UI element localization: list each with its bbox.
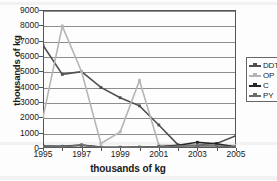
data-point xyxy=(100,142,103,145)
x-axis-tick-mark xyxy=(159,148,160,151)
legend-label: C xyxy=(263,81,269,90)
legend-swatch-icon xyxy=(249,62,261,69)
data-point xyxy=(119,131,122,134)
x-axis-tick-mark xyxy=(101,148,102,151)
data-point xyxy=(43,44,44,47)
series-lines xyxy=(43,10,236,148)
legend-item-op[interactable]: OP xyxy=(249,70,277,80)
data-point xyxy=(80,144,83,147)
legend-swatch-icon xyxy=(249,82,261,89)
x-axis-tick-mark xyxy=(43,148,44,151)
legend-swatch-icon xyxy=(249,72,261,79)
y-axis-tick-label: 6000 xyxy=(5,51,39,61)
data-point xyxy=(43,116,44,119)
chart-container: thousands of kg 010002000300040005000600… xyxy=(0,0,277,181)
legend-label: DDT xyxy=(263,61,277,70)
scan-artifact-top xyxy=(0,2,277,5)
legend-item-ddt[interactable]: DDT xyxy=(249,60,277,70)
scan-artifact-bottom xyxy=(0,176,277,180)
legend-item-c[interactable]: C xyxy=(249,80,277,90)
data-point xyxy=(100,86,103,89)
data-point xyxy=(235,134,236,137)
y-axis-tick-label: 9000 xyxy=(5,5,39,15)
x-axis-tick-mark xyxy=(140,148,141,151)
legend-item-py[interactable]: PY xyxy=(249,90,277,100)
x-axis-tick-mark xyxy=(217,148,218,151)
x-axis-tick-mark xyxy=(120,148,121,151)
y-axis-tick-label: 3000 xyxy=(5,97,39,107)
data-point xyxy=(80,70,83,73)
y-axis-tick-label: 5000 xyxy=(5,66,39,76)
x-axis-tick-mark xyxy=(82,148,83,151)
data-point xyxy=(138,104,141,107)
y-axis-tick-label: 7000 xyxy=(5,36,39,46)
data-point xyxy=(61,25,64,28)
data-point xyxy=(61,73,64,76)
data-point xyxy=(196,144,199,147)
y-axis-tick-label: 4000 xyxy=(5,82,39,92)
x-axis-tick-mark xyxy=(197,148,198,151)
y-axis-tick-label: 8000 xyxy=(5,20,39,30)
x-axis-tick-mark xyxy=(62,148,63,151)
chart-legend: DDTOPCPY xyxy=(246,57,277,102)
data-point xyxy=(138,79,141,82)
series-line-op xyxy=(43,26,236,146)
legend-swatch-icon xyxy=(249,92,261,99)
x-axis-tick-mark xyxy=(178,148,179,151)
y-axis-tick-label: 1000 xyxy=(5,128,39,138)
y-axis-tick-label: 2000 xyxy=(5,112,39,122)
x-axis-tick-mark xyxy=(236,148,237,151)
x-axis-title: thousands of kg xyxy=(18,163,238,174)
data-point xyxy=(196,141,199,144)
series-line-ddt xyxy=(43,45,236,145)
data-point xyxy=(119,96,122,99)
data-point xyxy=(215,145,218,148)
legend-label: OP xyxy=(263,71,274,80)
legend-label: PY xyxy=(263,91,273,100)
data-point xyxy=(157,124,160,127)
